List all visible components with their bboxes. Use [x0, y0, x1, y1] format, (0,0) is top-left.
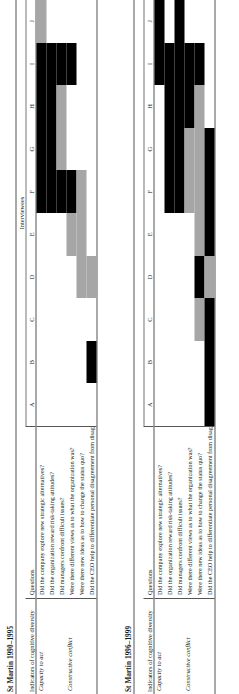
bar-row	[174, 0, 184, 426]
column-letters: ABCDEFGHIJ	[143, 0, 153, 426]
interviewees-band	[134, 0, 143, 694]
bar-segment-g-black	[164, 128, 174, 171]
column-letter-d: D	[144, 256, 153, 299]
bar-segment-i-black	[174, 43, 184, 86]
column-letter-d: D	[26, 256, 35, 299]
bar-row	[66, 0, 76, 426]
bar-segment-g-grey	[184, 128, 194, 171]
column-letter-e: E	[26, 213, 35, 256]
bar-segment-e-grey	[76, 213, 86, 256]
bar-segment-f-grey	[194, 170, 204, 213]
column-letter-b: B	[144, 341, 153, 384]
table-body: Capacity to actConstructive conflict Did…	[36, 0, 96, 694]
bar-row	[76, 0, 86, 426]
bar-segment-h-black	[46, 85, 56, 128]
bar-segment-f-black	[66, 170, 76, 213]
bar-segment-h-black	[36, 85, 46, 128]
table-grid: Indicators of cognitive diversity Questi…	[133, 0, 215, 694]
bar-row	[154, 0, 164, 426]
bar-segment-g-black	[46, 128, 56, 171]
spacer-indicators	[16, 598, 25, 694]
question-row: Did the organization reward risk-taking …	[46, 427, 56, 598]
bar-segment-h-black	[184, 85, 194, 128]
bar-segment-f-black	[46, 170, 56, 213]
bar-row	[36, 0, 46, 426]
bar-segment-g-black	[174, 128, 184, 171]
question-row: Did the company explore new strategic al…	[154, 427, 164, 598]
indicator-groups: Capacity to actConstructive conflict	[154, 598, 214, 694]
question-row: Were there different views as to what th…	[184, 427, 194, 598]
column-letter-a: A	[26, 383, 35, 426]
group-label-constructive-conflict: Constructive conflict	[183, 599, 190, 694]
bar-segment-j-grey	[36, 0, 46, 43]
panel-table: Indicators of cognitive diversity Questi…	[133, 0, 215, 694]
spacer-indicators	[134, 598, 143, 694]
bar-segment-h-black	[174, 85, 184, 128]
bar-plot	[154, 0, 214, 426]
bar-segment-f-black	[36, 170, 46, 213]
bar-segment-d-grey	[86, 256, 96, 299]
bar-segment-g-grey	[56, 128, 66, 171]
column-letter-i: I	[144, 43, 153, 86]
bar-segment-d-grey	[76, 256, 86, 299]
bar-segment-h-black	[164, 85, 174, 128]
column-letter-c: C	[144, 298, 153, 341]
column-letters: ABCDEFGHIJ	[25, 0, 35, 426]
bar-segment-d-black	[194, 256, 204, 299]
bar-plot	[36, 0, 96, 426]
column-letter-j: J	[144, 0, 153, 43]
header-columns: ABCDEFGHIJ	[25, 0, 35, 426]
bar-segment-g-black	[36, 128, 46, 171]
group-label-constructive-conflict: Constructive conflict	[65, 599, 72, 694]
panel-title: St Martin 1996–1999	[124, 0, 133, 694]
column-letter-g: G	[144, 128, 153, 171]
column-letter-a: A	[144, 383, 153, 426]
header-questions: Questions	[143, 426, 153, 598]
bar-segment-h-grey	[194, 85, 204, 128]
bar-row	[194, 0, 204, 426]
indicator-groups: Capacity to actConstructive conflict	[36, 598, 96, 694]
table-body: Capacity to actConstructive conflict Did…	[154, 0, 214, 694]
group-label-capacity-to-act: Capacity to act	[154, 599, 161, 694]
question-list: Did the company explore new strategic al…	[36, 426, 96, 598]
interviewees-label-cell	[134, 0, 143, 426]
column-letter-i: I	[26, 43, 35, 86]
bar-segment-f-black	[204, 170, 214, 213]
bar-segment-i-black	[36, 43, 46, 86]
bar-segment-j-black	[174, 0, 184, 43]
column-letter-b: B	[26, 341, 35, 384]
interviewees-label: Interviewees	[16, 0, 25, 426]
table-grid: Interviewees Indicators of cognitive div…	[15, 0, 97, 694]
bar-segment-b-black	[204, 341, 214, 384]
question-row: Did the company explore new strategic al…	[36, 427, 46, 598]
bar-segment-f-grey	[76, 170, 86, 213]
header-indicators: Indicators of cognitive diversity	[25, 598, 35, 694]
bar-segment-i-black	[66, 43, 76, 86]
question-row: Did the organization reward risk-taking …	[164, 427, 174, 598]
bar-segment-i-black	[164, 43, 174, 86]
bar-row	[46, 0, 56, 426]
header-questions: Questions	[25, 426, 35, 598]
header-indicators: Indicators of cognitive diversity	[143, 598, 153, 694]
bar-segment-j-black	[154, 0, 164, 43]
interviewees-label	[134, 0, 143, 426]
bar-segment-f-black	[164, 170, 174, 213]
bar-segment-g-grey	[194, 128, 204, 171]
panel-title: St Martin 1990–1995	[6, 0, 15, 694]
bar-segment-i-black	[194, 43, 204, 86]
bar-segment-d-grey	[204, 256, 214, 299]
question-row: Were there new ideas as to how to change…	[194, 427, 204, 598]
bar-segment-g-black	[204, 128, 214, 171]
question-row: Did managers confront difficult issues?	[174, 427, 184, 598]
column-letter-f: F	[144, 170, 153, 213]
interviewees-band: Interviewees	[16, 0, 25, 694]
question-row: Did managers confront difficult issues?	[56, 427, 66, 598]
header-row: Indicators of cognitive diversity Questi…	[143, 0, 154, 694]
question-row: Were there new ideas as to how to change…	[76, 427, 86, 598]
panel-st-martin-1990-1995: St Martin 1990–1995 Interviewees In	[6, 0, 97, 694]
column-letter-h: H	[144, 85, 153, 128]
bar-segment-h-grey	[56, 85, 66, 128]
column-letter-c: C	[26, 298, 35, 341]
group-label-capacity-to-act: Capacity to act	[36, 599, 43, 694]
column-letter-f: F	[26, 170, 35, 213]
